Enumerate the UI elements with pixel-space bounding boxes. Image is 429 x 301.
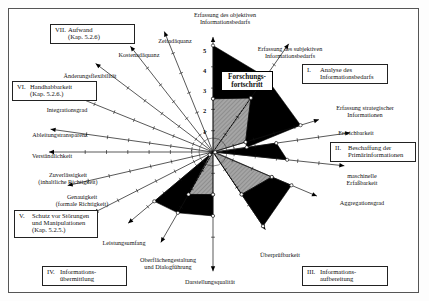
data-point-marker [211, 44, 214, 47]
axis-label-leist: Leistungsumfang [103, 239, 146, 246]
axis-label-line: Ableitungstransparenz [32, 131, 88, 138]
group-line: Aufwand [68, 26, 100, 33]
axis-label-aender: Änderungsflexibilität [64, 72, 117, 79]
group-line: Informationsbedarfs [320, 73, 373, 80]
data-point-marker [286, 158, 289, 161]
group-box-iv-uebermittlung: IV. Informations- übermittlung [42, 266, 127, 286]
arrowhead-icon [339, 163, 344, 167]
data-point-marker [261, 225, 264, 228]
data-point-marker [290, 184, 293, 187]
axis-label-line: Erfaßbarkeit [347, 179, 378, 186]
group-number: I. [307, 66, 320, 73]
axis-label-line: Überprüfbarkeit [260, 251, 300, 258]
axis-label-line: Genauigkeit [56, 193, 108, 200]
data-point-marker [153, 200, 156, 203]
data-point-marker [299, 124, 302, 127]
group-number: VII. [55, 26, 68, 33]
axis-label-line: Erfassung strategischer [336, 104, 394, 111]
group-number: VI. [17, 83, 30, 90]
axis-label-line: Informationen [336, 111, 394, 118]
data-point-marker [249, 96, 252, 99]
axis-label-line: Zeitadäquanz [158, 37, 191, 44]
arrowhead-icon [313, 119, 318, 123]
axis-label-line: Erreichbarkeit [338, 129, 373, 136]
axis-label-ueber: Überprüfbarkeit [260, 251, 300, 258]
data-point-marker [211, 193, 214, 196]
progress-label-line: fortschritt [222, 81, 272, 89]
data-point-marker [245, 146, 248, 149]
axis-label-subj: Erfassung des subjektiven Informationsbe… [258, 45, 323, 59]
axis-label-ableit: Ableitungstransparenz [32, 131, 88, 138]
group-line: Analyse des [320, 66, 373, 73]
axis-label-line: Leistungsumfang [103, 239, 146, 246]
group-number: III. [307, 268, 320, 275]
group-line: Schutz vor Störungen [32, 212, 89, 219]
group-line: Beschaffung der [348, 144, 403, 151]
axis-label-line: Integrationsgrad [47, 106, 88, 113]
axis-label-kosten: Kostenadäquanz [119, 51, 160, 58]
tick-label-3: 3 [203, 87, 206, 94]
axis-label-erreich: Erreichbarkeit [338, 129, 373, 136]
group-line: (Kap. 5.2.5.) [32, 226, 89, 233]
group-line: Primärinformationen [348, 151, 403, 158]
data-point-marker [208, 153, 211, 156]
group-box-i-analyse: I. Analyse des Informationsbedarfs [302, 64, 388, 84]
axis-label-line: (inhaltliche Richtigkeit) [38, 178, 97, 185]
group-box-ii-beschaffung: II. Beschaffung der Primärinformationen [330, 142, 416, 162]
axis-label-aggr: Aggregationsgrad [340, 199, 384, 206]
arrowhead-icon [96, 64, 101, 69]
tick-label-4: 4 [203, 67, 206, 74]
group-line: aufbereitung [320, 275, 356, 282]
axis-label-line: Informationsbedarfs [194, 18, 256, 25]
axis-label-line: (formale Richtigkeit) [56, 200, 108, 207]
arrowhead-icon [211, 266, 215, 271]
axis-label-zuverl: Zuverlässigkeit (inhaltliche Richtigkeit… [38, 171, 97, 185]
axis-line-integr [75, 96, 213, 152]
axis-label-obj: Erfassung des objektiven Informationsbed… [194, 11, 256, 25]
group-box-v-schutz: V. Schutz vor Störungen und Manipulation… [14, 210, 98, 238]
data-point-marker [244, 140, 247, 143]
axis-label-line: Verständlichkeit [32, 152, 72, 159]
group-text: Informations- übermittlung [60, 268, 96, 282]
tick-label-1: 1 [203, 128, 206, 135]
group-text: Aufwand (Kap. 5.2.6) [68, 26, 100, 40]
group-box-vi-handhabbarkeit: VI. Handhabbarkeit (Kap. 5.2.6.) [12, 81, 97, 101]
data-point-marker [211, 214, 214, 217]
axis-label-line: Kostenadäquanz [119, 51, 160, 58]
tick-label-2: 2 [203, 107, 206, 114]
group-text: Handhabbarkeit (Kap. 5.2.6.) [30, 83, 72, 97]
data-point-marker [275, 142, 278, 145]
group-line: Handhabbarkeit [30, 83, 72, 90]
axis-label-line: Oberflächengestaltung [140, 256, 196, 263]
group-box-iii-aufbereitung: III. Informations- aufbereitung [302, 266, 388, 286]
group-number: IV. [47, 268, 60, 275]
axis-label-line: Änderungsflexibilität [64, 72, 117, 79]
axis-label-line: Darstellungsqualität [185, 278, 235, 285]
group-line: (Kap. 5.2.6.) [30, 90, 72, 97]
data-point-marker [270, 175, 273, 178]
axis-label-line: Zuverlässigkeit [38, 171, 97, 178]
group-line: Informations- [320, 268, 356, 275]
axis-label-strat: Erfassung strategischer Informationen [336, 104, 394, 118]
progress-label-line: Forschungs- [222, 73, 272, 81]
axis-label-verst: Verständlichkeit [32, 152, 72, 159]
axis-label-genau: Genauigkeit (formale Richtigkeit) [56, 193, 108, 207]
group-number: V. [19, 212, 32, 219]
group-line: und Manipulationen [32, 219, 89, 226]
axis-label-darst: Darstellungsqualität [185, 278, 235, 285]
data-point-marker [211, 97, 214, 100]
group-line: übermittlung [60, 275, 96, 282]
axis-label-line: und Dialogführung [140, 263, 196, 270]
axis-label-integr: Integrationsgrad [47, 106, 88, 113]
data-point-marker [240, 193, 243, 196]
group-line: Informations- [60, 268, 96, 275]
axis-label-zeit: Zeitadäquanz [158, 37, 191, 44]
group-text: Analyse des Informationsbedarfs [320, 66, 373, 80]
group-number: II. [335, 144, 348, 151]
axis-label-masch: maschinelle Erfaßbarkeit [347, 172, 378, 186]
axis-label-line: Aggregationsgrad [340, 199, 384, 206]
group-line: (Kap. 5.2.6) [68, 33, 100, 40]
group-text: Informations- aufbereitung [320, 268, 356, 282]
group-text: Beschaffung der Primärinformationen [348, 144, 403, 158]
axis-label-oberfl: Oberflächengestaltung und Dialogführung [140, 256, 196, 270]
